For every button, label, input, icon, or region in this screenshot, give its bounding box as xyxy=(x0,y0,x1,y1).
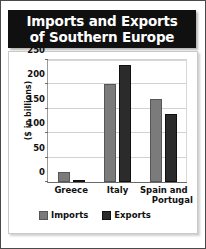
chart-legend: Imports Exports xyxy=(39,210,151,220)
plot-area: 250 200 150 100 50 0 Greece xyxy=(47,60,187,183)
legend-item-imports[interactable]: Imports xyxy=(39,210,88,220)
bar-greece-imports[interactable] xyxy=(58,172,70,182)
ytick-label-200: 200 xyxy=(27,69,45,79)
bar-group-spain-and-portugal: Spain and Portugal xyxy=(141,60,187,182)
bar-group-greece: Greece xyxy=(48,60,94,182)
legend-label-exports: Exports xyxy=(114,210,151,220)
legend-item-exports[interactable]: Exports xyxy=(102,210,151,220)
legend-label-imports: Imports xyxy=(51,210,88,220)
bar-group-italy: Italy xyxy=(94,60,140,182)
y-axis-title: ($ in billions) xyxy=(24,71,33,151)
chart-title-line-1: Imports and Exports xyxy=(26,13,177,29)
xtick-label-greece-line1: Greece xyxy=(54,185,88,195)
bar-spain-and-portugal-exports[interactable] xyxy=(165,114,177,182)
xtick-label-spain-and-portugal: Spain and Portugal xyxy=(131,185,197,205)
chart-panel: ($ in billions) 250 200 150 100 50 0 xyxy=(8,51,198,234)
chart-title-line-2: of Southern Europe xyxy=(30,29,175,45)
ytick-label-0: 0 xyxy=(39,167,45,177)
ytick-label-100: 100 xyxy=(27,118,45,128)
chart-figure: Imports and Exports of Southern Europe (… xyxy=(0,0,206,249)
bar-spain-and-portugal-imports[interactable] xyxy=(150,99,162,182)
xtick-label-spain-line1: Spain and xyxy=(140,185,188,195)
ytick-label-50: 50 xyxy=(33,143,45,153)
bar-greece-exports[interactable] xyxy=(73,180,85,182)
legend-swatch-exports-icon xyxy=(102,211,111,220)
legend-swatch-imports-icon xyxy=(39,211,48,220)
xtick-label-italy-line1: Italy xyxy=(107,185,128,195)
chart-title-banner: Imports and Exports of Southern Europe xyxy=(8,10,196,48)
bar-italy-imports[interactable] xyxy=(104,84,116,182)
xtick-label-spain-line2: Portugal xyxy=(131,195,197,205)
ytick-label-250: 250 xyxy=(27,45,45,55)
ytick-label-150: 150 xyxy=(27,94,45,104)
bar-italy-exports[interactable] xyxy=(119,65,131,182)
